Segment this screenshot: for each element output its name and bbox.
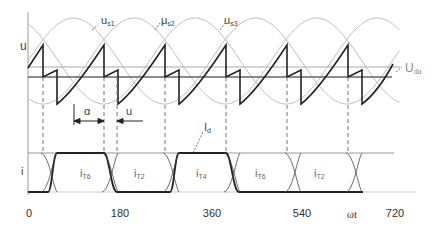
current-label-5: iT2 [314,168,325,180]
curve-label-us3: us3 [224,15,238,27]
mean-voltage-label: Udα [405,62,422,75]
voltage-axis-label: u [20,40,27,52]
alpha-label: α [84,106,90,117]
curve-label-us2: μs2 [161,15,175,27]
x-tick-540: 540 [293,208,311,219]
supply-voltage-sines [29,18,399,104]
output-voltage-waveform [28,45,393,104]
current-label-3: iT4 [196,168,207,180]
curve-label-us1: us1 [101,15,115,27]
x-tick-720: 720 [386,208,404,219]
current-label-1: iT6 [80,168,91,180]
x-axis-label: ωt [347,209,357,220]
x-tick-0: 0 [26,208,32,219]
current-label-4: iT6 [255,168,266,180]
x-tick-180: 180 [111,208,129,219]
diagram-canvas [0,0,443,229]
current-axis-label: i [21,166,23,177]
overlap-arrow [117,119,143,124]
dc-current-label: Id [204,122,211,134]
current-label-2: iT2 [134,168,145,180]
overlap-label: u [126,106,132,117]
x-tick-360: 360 [203,208,221,219]
